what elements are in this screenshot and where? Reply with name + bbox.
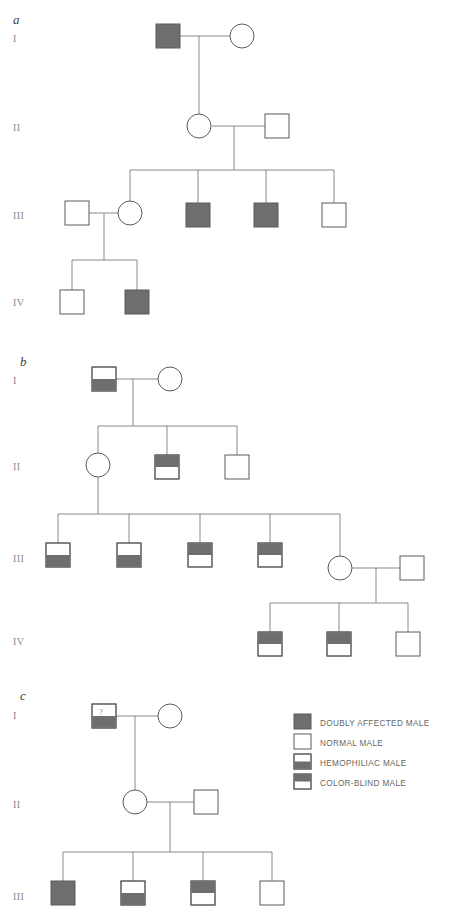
a-III-5[interactable]	[322, 203, 346, 227]
b-III-1[interactable]	[46, 543, 70, 567]
c-III-4[interactable]	[260, 881, 284, 905]
b-III-6[interactable]	[400, 556, 424, 580]
c-I-1[interactable]: ?	[92, 704, 116, 728]
gen-label-a-IV: IV	[13, 297, 25, 308]
legend-item-doubly-affected: DOUBLY AFFECTED MALE	[294, 714, 430, 729]
gen-label-b-II: II	[13, 461, 20, 472]
legend-label-color-blind: COLOR-BLIND MALE	[320, 779, 406, 788]
b-III-4[interactable]	[258, 543, 282, 567]
b-II-2[interactable]	[155, 455, 179, 479]
gen-label-c-II: II	[13, 799, 20, 810]
b-IV-3[interactable]	[396, 632, 420, 656]
c-II-1[interactable]	[123, 790, 147, 814]
panel-b-lines	[58, 379, 408, 632]
c-I-2[interactable]	[158, 704, 182, 728]
b-III-5[interactable]	[328, 556, 352, 580]
a-IV-2[interactable]	[125, 290, 149, 314]
panel-a: a I II III IV	[13, 12, 346, 314]
legend-item-color-blind: COLOR-BLIND MALE	[294, 774, 406, 789]
panel-letter-a: a	[13, 12, 20, 27]
gen-label-b-III: III	[13, 553, 24, 564]
gen-label-c-III: III	[13, 891, 24, 902]
a-II-1[interactable]	[187, 114, 211, 138]
legend: DOUBLY AFFECTED MALE NORMAL MALE HEMOPHI…	[294, 714, 430, 789]
c-II-2[interactable]	[194, 790, 218, 814]
gen-label-b-IV: IV	[13, 636, 25, 647]
a-II-2[interactable]	[265, 114, 289, 138]
legend-item-hemophiliac: HEMOPHILIAC MALE	[294, 754, 407, 769]
a-IV-1[interactable]	[60, 290, 84, 314]
a-III-4[interactable]	[254, 203, 278, 227]
a-I-2[interactable]	[230, 24, 254, 48]
gen-label-a-III: III	[13, 210, 24, 221]
panel-c-lines	[63, 716, 272, 881]
gen-label-a-II: II	[13, 122, 20, 133]
legend-label-normal: NORMAL MALE	[320, 739, 383, 748]
b-I-2[interactable]	[158, 367, 182, 391]
legend-label-hemophiliac: HEMOPHILIAC MALE	[320, 759, 407, 768]
a-III-3[interactable]	[186, 203, 210, 227]
gen-label-c-I: I	[13, 710, 17, 721]
panel-a-lines	[72, 36, 334, 290]
c-I-1-annotation: ?	[99, 708, 103, 717]
b-II-1[interactable]	[86, 453, 110, 477]
a-III-2[interactable]	[118, 201, 142, 225]
b-IV-2[interactable]	[327, 632, 351, 656]
b-II-3[interactable]	[225, 455, 249, 479]
b-III-2[interactable]	[117, 543, 141, 567]
gen-label-b-I: I	[13, 375, 17, 386]
legend-item-normal: NORMAL MALE	[294, 734, 383, 749]
panel-c: c I II III ?	[13, 688, 284, 905]
b-IV-1[interactable]	[258, 632, 282, 656]
a-III-1[interactable]	[65, 201, 89, 225]
panel-b: b I II III IV	[13, 354, 424, 656]
panel-letter-b: b	[20, 354, 27, 369]
b-III-3[interactable]	[188, 543, 212, 567]
panel-letter-c: c	[20, 688, 26, 703]
c-III-1[interactable]	[51, 881, 75, 905]
pedigree-figure: a I II III IV	[0, 0, 450, 916]
c-III-2[interactable]	[121, 881, 145, 905]
b-I-1[interactable]	[92, 367, 116, 391]
a-I-1[interactable]	[156, 24, 180, 48]
gen-label-a-I: I	[13, 33, 17, 44]
c-III-3[interactable]	[191, 881, 215, 905]
legend-label-doubly-affected: DOUBLY AFFECTED MALE	[320, 719, 430, 728]
